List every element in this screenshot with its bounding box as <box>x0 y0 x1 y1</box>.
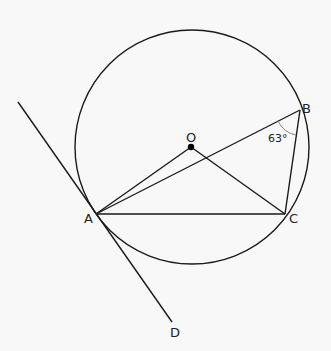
segment-oa <box>96 147 191 214</box>
angle-label-63: 63° <box>268 132 288 145</box>
label-o: O <box>186 130 196 145</box>
tangent-line-ad <box>18 102 172 322</box>
segment-oc <box>191 147 285 214</box>
label-c: C <box>289 211 298 226</box>
segment-ab <box>96 110 300 214</box>
label-a: A <box>84 211 93 226</box>
label-b: B <box>302 101 311 116</box>
geometry-diagram: O A B C D 63° <box>0 0 331 351</box>
label-d: D <box>170 325 180 340</box>
